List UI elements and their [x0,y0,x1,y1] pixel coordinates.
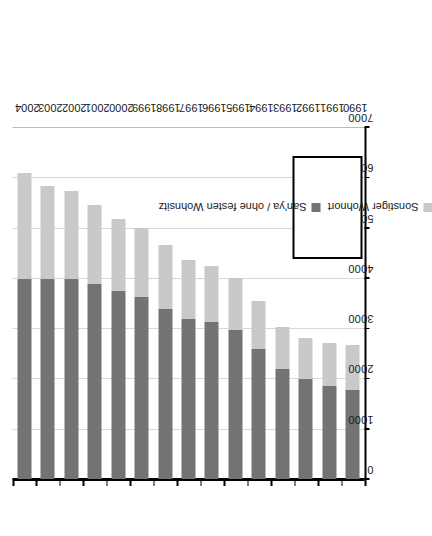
bar-segment-sanya-1998 [158,309,172,480]
value-tick-label-4000: 4000 [348,263,373,275]
bar-segment-sonstiger-2002 [64,191,78,279]
bar-segment-sanya-1995 [228,330,242,480]
category-axis-line [12,480,364,482]
category-label-2000: 2000 [108,102,132,114]
category-tick [341,481,343,486]
value-tick-label-1000: 1000 [348,414,373,426]
bar-segment-sonstiger-1994 [251,301,265,349]
bar-group-1997 [181,128,195,480]
category-tick [200,481,202,486]
value-axis-rule [364,127,366,481]
bar-segment-sonstiger-1993 [275,327,289,369]
bar-segment-sanya-1993 [275,369,289,480]
bar-segment-sonstiger-1995 [228,278,242,330]
bar-segment-sonstiger-2000 [111,219,125,291]
category-tick [153,481,155,486]
bar-segment-sanya-2003 [40,279,54,480]
category-label-1991: 1991 [319,102,343,114]
bar-segment-sonstiger-1999 [134,228,148,297]
bar-group-1993 [275,128,289,480]
bar-group-1996 [204,128,218,480]
bar-group-2004 [17,128,31,480]
bar-segment-sanya-1996 [204,322,218,480]
legend-swatch-dark-icon [311,203,320,212]
category-label-1997: 1997 [179,102,203,114]
category-label-1995: 1995 [225,102,249,114]
legend-entries: Sonstiger Wohnort San'ya / ohne festen W… [222,201,432,213]
category-tick [364,481,366,486]
legend-entry-sonstiger-wohnort: Sonstiger Wohnort [334,201,432,213]
value-tick-label-0: 0 [367,464,373,476]
category-tick [223,481,225,486]
bar-segment-sanya-1990 [345,391,359,481]
category-tick [35,481,37,486]
category-tick [176,481,178,486]
bar-group-2001 [87,128,101,480]
bar-segment-sanya-1994 [251,349,265,480]
legend-entry-sanya-ohne-festen-wohnsitz: San'ya / ohne festen Wohnsitz [222,201,320,213]
category-label-1998: 1998 [155,102,179,114]
category-tick [270,481,272,486]
bar-segment-sonstiger-1992 [298,338,312,379]
bar-group-1998 [158,128,172,480]
bar-segment-sanya-1997 [181,319,195,480]
category-tick [12,481,14,486]
category-tick [317,481,319,486]
legend-label-sonstiger-wohnort: Sonstiger Wohnort [334,201,418,213]
bar-segment-sonstiger-2003 [40,186,54,279]
legend: Sonstiger Wohnort San'ya / ohne festen W… [292,156,361,259]
bar-segment-sonstiger-2001 [87,205,101,284]
category-tick [294,481,296,486]
value-tick-label-2000: 2000 [348,363,373,375]
bar-segment-sanya-1991 [322,386,336,480]
bar-segment-sanya-2001 [87,284,101,480]
category-tick [82,481,84,486]
category-label-1992: 1992 [296,102,320,114]
category-tick [59,481,61,486]
bar-segment-sonstiger-1998 [158,245,172,309]
bar-segment-sonstiger-2004 [17,173,31,279]
bar-segment-sanya-1999 [134,297,148,480]
bar-group-2003 [40,128,54,480]
category-label-2004: 2004 [14,102,38,114]
category-tick [247,481,249,486]
category-label-1994: 1994 [249,102,273,114]
bar-segment-sanya-1992 [298,379,312,480]
value-tick-label-3000: 3000 [348,313,373,325]
bar-segment-sanya-2002 [64,279,78,480]
category-label-2003: 2003 [38,102,62,114]
bar-segment-sonstiger-1996 [204,266,218,322]
legend-label-sanya-ohne-festen-wohnsitz: San'ya / ohne festen Wohnsitz [222,201,306,213]
category-label-1993: 1993 [272,102,296,114]
category-label-1996: 1996 [202,102,226,114]
category-label-2002: 2002 [61,102,85,114]
bar-segment-sanya-2000 [111,291,125,480]
bar-group-1995 [228,128,242,480]
bar-group-2002 [64,128,78,480]
bar-group-1994 [251,128,265,480]
bar-segment-sanya-2004 [17,279,31,480]
category-label-2001: 2001 [85,102,109,114]
bar-group-2000 [111,128,125,480]
category-tick [106,481,108,486]
bar-segment-sonstiger-1991 [322,343,336,386]
bar-segment-sonstiger-1997 [181,260,195,319]
category-tick [129,481,131,486]
category-label-1990: 1990 [343,102,367,114]
category-label-1999: 1999 [132,102,156,114]
legend-swatch-light-icon [423,203,432,212]
bar-group-1999 [134,128,148,480]
